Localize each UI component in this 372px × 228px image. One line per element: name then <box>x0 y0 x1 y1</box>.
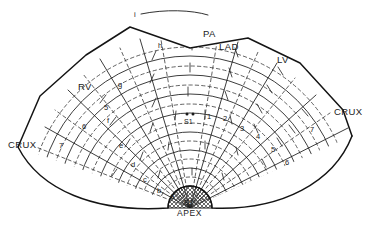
radial-solid-1 <box>45 127 190 208</box>
tick-row-e <box>100 63 308 116</box>
fan-outer-boundary <box>18 27 352 147</box>
label-right-segment-3: 3 <box>240 124 244 133</box>
label-s2: S2 <box>184 199 193 206</box>
label-right-segment-4: 4 <box>256 132 260 141</box>
label-segment-e: e <box>119 141 123 150</box>
tick-row-c <box>158 168 250 190</box>
solid-arc-group <box>38 56 342 208</box>
label-segment-d: d <box>131 160 135 169</box>
label-segment-b: b <box>157 186 161 195</box>
label-left-segment-7: 7 <box>59 141 63 150</box>
i-leader-line <box>141 11 208 15</box>
label-lv: LV <box>277 54 289 65</box>
tick-row-b <box>112 141 266 176</box>
label-crux-left: CRUX <box>8 139 37 150</box>
label-segment-g: g <box>118 80 122 89</box>
tick-row-a <box>125 110 282 147</box>
label-lad: LAD <box>219 41 239 52</box>
label-apex: APEX <box>177 208 202 218</box>
radial-dashed-8 <box>190 78 295 208</box>
tick-row-d <box>110 87 295 133</box>
label-rv: RV <box>78 81 92 92</box>
label-crux-right: CRUX <box>334 106 363 117</box>
label-left-segment-6: 6 <box>82 122 86 131</box>
diagram-canvas: PA LAD LV RV CRUX CRUX APEX S1 S2 i h g … <box>0 0 372 228</box>
label-right-segment-6: 6 <box>285 158 289 167</box>
label-right-segment-1: 1 <box>207 112 211 121</box>
radial-dashed-4 <box>120 48 190 208</box>
label-segment-h: h <box>158 41 162 50</box>
label-segment-f: f <box>107 116 110 125</box>
radial-dashed-3 <box>83 74 190 208</box>
radial-dashed-10 <box>190 141 345 208</box>
label-right-segment-2: 2 <box>223 114 227 123</box>
label-right-segment-5: 5 <box>271 145 275 154</box>
label-s1: S1 <box>184 118 193 125</box>
label-segment-c: c <box>143 175 147 184</box>
label-pa: PA <box>203 28 216 39</box>
cardiac-fan-diagram: PA LAD LV RV CRUX CRUX APEX S1 S2 i h g … <box>0 0 372 228</box>
radial-dashed-1 <box>36 147 190 208</box>
label-left-segment-5: 5 <box>104 103 108 112</box>
radial-solid-5 <box>190 42 238 208</box>
radial-solid-group <box>45 39 348 208</box>
label-segment-i: i <box>134 10 136 19</box>
label-right-segment-7: 7 <box>310 125 314 134</box>
radial-dashed-6 <box>190 36 218 208</box>
